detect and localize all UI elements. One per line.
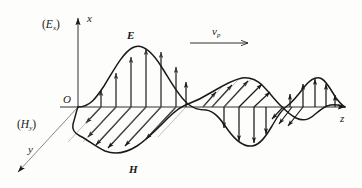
e-field-arrow-group	[101, 49, 335, 143]
z-axis-label: z	[340, 113, 344, 124]
paren-close: )	[32, 118, 36, 130]
h-projection-line	[113, 107, 146, 142]
v-subscript: p	[217, 31, 220, 38]
propagation-velocity-label: vp	[212, 26, 220, 39]
x-axis-label: x	[87, 13, 92, 24]
h-curve-label: H	[129, 164, 138, 175]
h-projection-line	[98, 107, 131, 142]
e-curve-label: E	[127, 30, 134, 41]
electric-field-axis-label: (Ex)	[42, 19, 60, 32]
origin-label: O	[63, 94, 71, 105]
h-field-arrow	[254, 92, 270, 107]
h-field-arrow-group	[86, 81, 303, 148]
y-axis-label: y	[28, 144, 33, 155]
e-projection-line-group	[101, 49, 176, 107]
h-projection-line	[128, 107, 161, 142]
magnetic-field-axis-label: (Hy)	[17, 119, 36, 132]
e-field-curve	[78, 46, 345, 146]
h-projection-line	[83, 107, 116, 142]
e-symbol: E	[46, 18, 53, 30]
h-symbol: H	[21, 118, 29, 130]
paren-close: )	[56, 18, 60, 30]
y-axis	[18, 107, 78, 172]
